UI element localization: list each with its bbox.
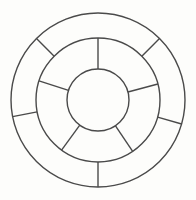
concentric-wheel-diagram: Concentric Wheel Diagram bbox=[0, 0, 196, 200]
figure-root: Concentric Wheel Diagram bbox=[0, 0, 196, 200]
